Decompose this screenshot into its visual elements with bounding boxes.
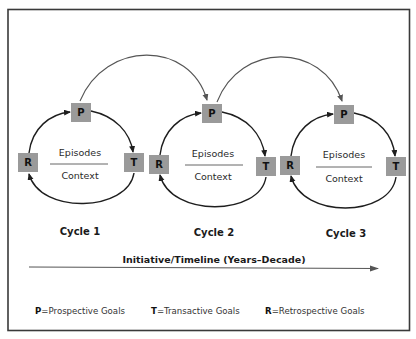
node-t-label: T (131, 157, 138, 168)
context-label: Context (325, 173, 362, 184)
context-label: Context (194, 171, 231, 182)
arrow-p-to-t (91, 111, 133, 152)
node-r-label: R (155, 159, 163, 170)
node-p-label: P (77, 107, 84, 118)
legend-desc: =Prospective Goals (41, 306, 125, 316)
cycle-title: Cycle 3 (326, 228, 366, 239)
legend: P=Prospective Goals T=Transactive Goals … (35, 306, 365, 316)
context-label: Context (61, 170, 98, 181)
node-t-label: T (393, 161, 400, 172)
episodes-label: Episodes (323, 149, 365, 160)
node-r-label: R (24, 157, 32, 168)
arrow-cycle2-to-cycle3 (217, 57, 342, 102)
arrow-cycle1-to-cycle2 (80, 55, 207, 101)
cycle-3: R P T Episodes Context Cycle 3 (280, 105, 406, 239)
node-p-label: P (208, 108, 215, 119)
cycle-1: R P T Episodes Context Cycle 1 (18, 103, 144, 237)
node-p-label: P (340, 109, 347, 120)
cycle-title: Cycle 2 (194, 227, 234, 238)
cycle-title: Cycle 1 (60, 226, 100, 237)
legend-item-r: R=Retrospective Goals (265, 306, 365, 316)
timeline-label: Initiative/Timeline (Years–Decade) (122, 254, 305, 265)
legend-desc: =Transactive Goals (157, 306, 240, 316)
node-r-label: R (286, 160, 294, 171)
node-t-label: T (263, 161, 270, 172)
episodes-label: Episodes (59, 147, 101, 158)
episodes-label: Episodes (192, 148, 234, 159)
timeline-arrow (29, 267, 378, 269)
goal-cycles-diagram: R P T Episodes Context Cycle 1 R P T Epi… (0, 0, 416, 339)
legend-item-t: T=Transactive Goals (151, 306, 240, 316)
legend-item-p: P=Prospective Goals (35, 306, 126, 316)
legend-desc: =Retrospective Goals (272, 306, 365, 316)
cycle-2: R P T Episodes Context Cycle 2 (149, 104, 276, 238)
